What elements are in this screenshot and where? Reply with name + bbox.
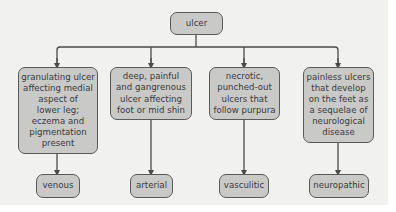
type-label: neuropathic: [313, 180, 364, 191]
type-node-arterial: arterial: [130, 174, 173, 198]
description-text: deep, painful and gangrenous ulcer affec…: [116, 71, 186, 115]
root-node-ulcer: ulcer: [170, 12, 223, 35]
description-text: granulating ulcer affecting medial aspec…: [21, 72, 95, 150]
type-label: venous: [42, 180, 73, 191]
description-text: necrotic, punched-out ulcers that follow…: [213, 71, 275, 115]
type-label: arterial: [136, 180, 167, 191]
description-node-venous: granulating ulcer affecting medial aspec…: [18, 67, 98, 154]
root-label: ulcer: [186, 18, 207, 29]
description-node-arterial: deep, painful and gangrenous ulcer affec…: [110, 67, 192, 120]
type-node-neuropathic: neuropathic: [309, 174, 369, 198]
type-label: vasculitic: [224, 180, 264, 191]
description-node-vasculitic: necrotic, punched-out ulcers that follow…: [209, 67, 280, 120]
description-node-neuropathic: painless ulcers that develop on the feet…: [303, 67, 374, 143]
type-node-vasculitic: vasculitic: [219, 174, 269, 198]
description-text: painless ulcers that develop on the feet…: [307, 72, 371, 139]
type-node-venous: venous: [36, 174, 80, 198]
